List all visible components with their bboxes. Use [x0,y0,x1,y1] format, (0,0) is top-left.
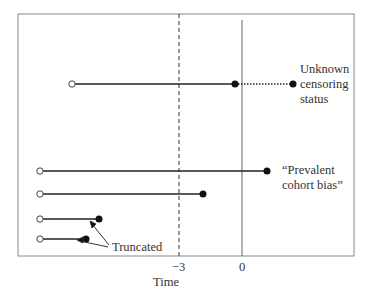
label-line: “Prevalent [282,163,343,178]
diagram-canvas [0,0,370,297]
label-line: status [300,92,349,107]
x-axis-label: Time [153,275,179,290]
truncated-label: Truncated [112,240,162,255]
tick-label-minus3: −3 [172,260,185,275]
tick-label-0: 0 [239,260,245,275]
subject-line-4 [37,216,103,223]
prevalent-cohort-bias-label: “Prevalent cohort bias” [282,163,343,193]
subject-line-1 [69,81,297,88]
label-line: Unknown [300,62,349,77]
subject-line-3 [37,191,207,198]
subject-line-2 [37,168,271,175]
label-line: censoring [300,77,349,92]
truncated-arrows [77,221,109,247]
label-line: cohort bias” [282,178,343,193]
unknown-censoring-label: Unknown censoring status [300,62,349,107]
